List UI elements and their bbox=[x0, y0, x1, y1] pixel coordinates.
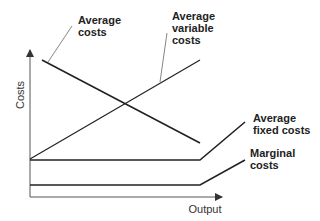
average-variable-costs-line bbox=[30, 60, 200, 159]
average-costs-leader bbox=[48, 26, 72, 62]
y-axis-label: Costs bbox=[14, 80, 26, 109]
average-fixed-costs-label: Average fixed costs bbox=[253, 112, 310, 136]
marginal-costs-line bbox=[30, 160, 245, 185]
cost-curves-chart: Costs Output Average costs Average varia… bbox=[0, 0, 320, 221]
average-fixed-costs-line bbox=[30, 122, 245, 160]
average-variable-costs-leader bbox=[160, 33, 167, 82]
x-axis-label: Output bbox=[188, 203, 221, 215]
average-costs-label: Average costs bbox=[78, 14, 124, 38]
average-costs-line bbox=[42, 60, 200, 143]
marginal-costs-label: Marginal costs bbox=[250, 147, 298, 171]
average-variable-costs-label: Average variable costs bbox=[172, 10, 218, 46]
